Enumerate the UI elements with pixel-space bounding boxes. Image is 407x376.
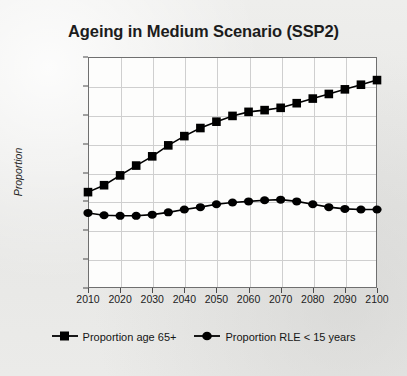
- x-tick-label: 2010: [76, 293, 99, 305]
- legend-label: Proportion age 65+: [83, 331, 177, 343]
- circle-marker-icon: [292, 197, 301, 205]
- x-tick-label: 2030: [141, 293, 164, 305]
- square-marker-icon: [52, 330, 78, 344]
- x-tick-label: 2090: [333, 293, 356, 305]
- series-line: [88, 80, 377, 192]
- circle-marker-icon: [148, 211, 157, 219]
- square-marker-icon: [276, 104, 285, 113]
- square-marker-icon: [260, 106, 269, 115]
- square-marker-icon: [212, 117, 221, 126]
- x-tick-label: 2070: [269, 293, 292, 305]
- series-1: [84, 76, 382, 197]
- square-marker-icon: [196, 124, 205, 133]
- square-marker-icon: [341, 85, 350, 94]
- x-tick-mark: [88, 288, 89, 293]
- chart-legend: Proportion age 65+Proportion RLE < 15 ye…: [0, 330, 407, 344]
- x-tick-label: 2080: [301, 293, 324, 305]
- square-marker-icon: [244, 108, 253, 117]
- x-tick-label: 2020: [108, 293, 131, 305]
- legend-entry-2[interactable]: Proportion RLE < 15 years: [194, 330, 355, 344]
- circle-marker-icon: [228, 199, 237, 207]
- x-tick-mark: [120, 288, 121, 293]
- y-axis-title: Proportion: [12, 148, 24, 196]
- square-marker-icon: [132, 161, 141, 170]
- legend-entry-1[interactable]: Proportion age 65+: [52, 330, 177, 344]
- circle-marker-icon: [116, 212, 125, 220]
- square-marker-icon: [116, 171, 125, 180]
- circle-marker-icon: [194, 330, 220, 344]
- circle-marker-icon: [276, 196, 285, 204]
- chart-figure: Ageing in Medium Scenario (SSP2) 0.0000.…: [0, 0, 407, 376]
- circle-marker-icon: [308, 200, 317, 208]
- circle-marker-icon: [99, 211, 108, 219]
- x-tick-label: 2050: [205, 293, 228, 305]
- circle-marker-icon: [372, 205, 381, 213]
- x-tick-label: 2040: [173, 293, 196, 305]
- x-tick-label: 2060: [237, 293, 260, 305]
- x-tick-mark: [184, 288, 185, 293]
- square-marker-icon: [325, 90, 334, 99]
- circle-marker-icon: [340, 205, 349, 213]
- x-tick-mark: [377, 288, 378, 293]
- square-marker-icon: [84, 188, 93, 197]
- square-marker-icon: [180, 132, 189, 141]
- x-tick-mark: [152, 288, 153, 293]
- square-marker-icon: [148, 152, 157, 161]
- circle-marker-icon: [244, 197, 253, 205]
- x-tick-mark: [313, 288, 314, 293]
- square-marker-icon: [100, 181, 109, 190]
- circle-marker-icon: [324, 203, 333, 211]
- x-tick-mark: [249, 288, 250, 293]
- x-tick-mark: [281, 288, 282, 293]
- x-tick-mark: [345, 288, 346, 293]
- circle-marker-icon: [132, 212, 141, 220]
- square-marker-icon: [373, 76, 382, 85]
- square-marker-icon: [164, 141, 173, 150]
- data-series-layer: [88, 57, 377, 288]
- x-tick-label: 2100: [365, 293, 388, 305]
- square-marker-icon: [357, 80, 366, 89]
- circle-marker-icon: [356, 205, 365, 213]
- legend-label: Proportion RLE < 15 years: [225, 331, 355, 343]
- circle-marker-icon: [180, 205, 189, 213]
- square-marker-icon: [308, 94, 317, 103]
- square-marker-icon: [228, 112, 237, 121]
- circle-marker-icon: [260, 196, 269, 204]
- circle-marker-icon: [196, 203, 205, 211]
- square-marker-icon: [292, 99, 301, 108]
- series-2: [83, 196, 381, 220]
- circle-marker-icon: [164, 208, 173, 216]
- circle-marker-icon: [83, 209, 92, 217]
- circle-marker-icon: [212, 200, 221, 208]
- x-tick-mark: [216, 288, 217, 293]
